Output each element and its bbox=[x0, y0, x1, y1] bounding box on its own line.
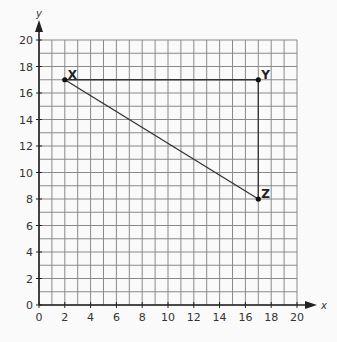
point-z bbox=[256, 196, 261, 201]
triangle-xyz bbox=[65, 80, 258, 199]
y-tick-label: 20 bbox=[19, 34, 33, 47]
y-tick-label: 12 bbox=[19, 140, 33, 153]
y-tick-label: 10 bbox=[19, 167, 33, 180]
y-tick-label: 14 bbox=[19, 114, 33, 127]
y-tick-label: 0 bbox=[26, 299, 33, 312]
point-label-x: X bbox=[68, 68, 78, 82]
x-tick-label: 10 bbox=[161, 311, 175, 324]
x-tick-label: 14 bbox=[213, 311, 227, 324]
x-tick-label: 0 bbox=[36, 311, 43, 324]
y-tick-label: 4 bbox=[26, 246, 33, 259]
y-tick-label: 18 bbox=[19, 61, 33, 74]
x-tick-label: 4 bbox=[87, 311, 94, 324]
x-tick-label: 6 bbox=[113, 311, 120, 324]
point-label-y: Y bbox=[260, 68, 270, 82]
y-tick-label: 2 bbox=[26, 273, 33, 286]
point-label-z: Z bbox=[261, 187, 270, 201]
x-axis-title: x bbox=[320, 300, 327, 311]
x-tick-label: 18 bbox=[264, 311, 278, 324]
segment-xz bbox=[65, 80, 258, 199]
y-tick-label: 16 bbox=[19, 87, 33, 100]
point-x bbox=[62, 77, 67, 82]
x-tick-label: 12 bbox=[187, 311, 201, 324]
x-tick-label: 2 bbox=[61, 311, 68, 324]
y-tick-label: 6 bbox=[26, 220, 33, 233]
y-tick-label: 8 bbox=[26, 193, 33, 206]
plotted-points: XYZ bbox=[62, 68, 270, 202]
x-tick-label: 16 bbox=[238, 311, 252, 324]
coordinate-grid-chart: xy 0246810121416182002468101214161820 XY… bbox=[0, 0, 337, 342]
y-axis-arrow-icon bbox=[35, 20, 43, 32]
point-y bbox=[256, 77, 261, 82]
x-tick-label: 8 bbox=[139, 311, 146, 324]
x-axis-arrow-icon bbox=[305, 301, 317, 309]
x-tick-label: 20 bbox=[290, 311, 304, 324]
y-axis-title: y bbox=[35, 8, 43, 19]
